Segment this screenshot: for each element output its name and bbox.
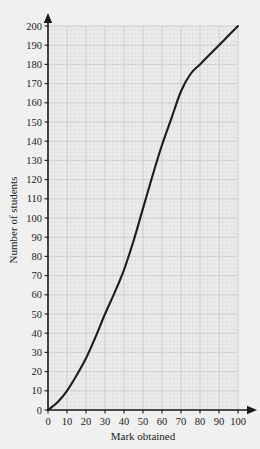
y-tick-label: 80 [32,251,43,262]
y-tick-label: 30 [32,347,43,358]
x-tick-label: 100 [230,416,246,427]
y-tick-label: 0 [37,405,42,416]
x-tick-label: 0 [45,416,50,427]
y-tick-label: 60 [32,289,43,300]
y-tick-label: 200 [26,21,42,32]
x-tick-label: 70 [176,416,187,427]
y-axis-label: Number of students [7,177,19,264]
y-tick-label: 130 [26,155,42,166]
y-tick-label: 20 [32,366,43,377]
y-tick-label: 170 [26,78,42,89]
y-tick-label: 140 [26,136,42,147]
y-tick-label: 150 [26,117,42,128]
y-tick-label: 90 [32,232,43,243]
y-tick-label: 10 [32,385,43,396]
x-tick-label: 40 [119,416,130,427]
x-tick-label: 90 [214,416,225,427]
x-tick-label: 20 [81,416,92,427]
x-tick-label: 60 [157,416,168,427]
x-tick-label: 80 [195,416,206,427]
y-tick-label: 70 [32,270,43,281]
y-tick-label: 160 [26,97,42,108]
y-tick-label: 100 [26,213,42,224]
y-tick-label: 110 [27,193,42,204]
x-tick-label: 30 [100,416,111,427]
grid-major-lines [48,26,238,410]
cumulative-frequency-chart: 0102030405060708090100 01020304050607080… [0,0,260,449]
chart-svg: 0102030405060708090100 01020304050607080… [0,0,260,449]
y-tick-label: 120 [26,174,42,185]
y-tick-label: 190 [26,40,42,51]
y-tick-label: 180 [26,59,42,70]
x-axis-label: Mark obtained [111,430,176,442]
y-tick-label: 50 [32,309,43,320]
x-tick-label: 10 [62,416,73,427]
x-tick-label: 50 [138,416,149,427]
y-tick-label: 40 [32,328,43,339]
